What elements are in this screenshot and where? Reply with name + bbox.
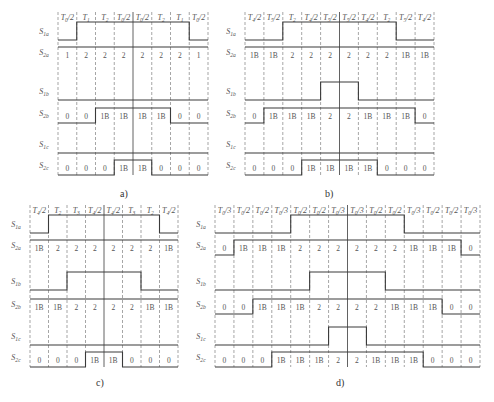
state-value: 0 xyxy=(469,356,473,365)
state-value: 0 xyxy=(423,164,427,173)
state-value: 1B xyxy=(390,303,399,312)
state-value: 1B xyxy=(382,112,391,121)
panel-a: T0/2T1T2T0/2T0/2T2T1T0/2S1aS2a12222221S1… xyxy=(39,12,208,200)
state-value: 0 xyxy=(423,112,427,121)
state-value: 0 xyxy=(178,164,182,173)
signal-label: S1a xyxy=(11,220,21,230)
state-value: 0 xyxy=(242,356,246,365)
state-value: 0 xyxy=(404,164,408,173)
state-value: 2 xyxy=(56,244,60,253)
state-value: 0 xyxy=(450,303,454,312)
state-value: 0 xyxy=(167,356,171,365)
state-value: 1B xyxy=(269,112,278,121)
state-value: 0 xyxy=(223,244,227,253)
state-value: 2 xyxy=(317,244,321,253)
state-value: 2 xyxy=(111,303,115,312)
state-value: 0 xyxy=(66,112,70,121)
state-value: 1B xyxy=(363,112,372,121)
panel-d: T0/3T0/2T0/2T0/3T0/2T0/2T0/3T0/3T0/2T0/2… xyxy=(196,205,480,389)
state-value: 1B xyxy=(277,244,286,253)
state-value: 1B xyxy=(390,356,399,365)
state-value: 1B xyxy=(164,303,173,312)
interval-header: T4/2 xyxy=(248,13,261,23)
state-value: 0 xyxy=(253,112,257,121)
signal-label: S1b xyxy=(39,87,49,97)
state-value: 1B xyxy=(164,244,173,253)
state-value: 1B xyxy=(90,356,99,365)
state-value: 2 xyxy=(148,244,152,253)
signal-label: S2a xyxy=(196,241,206,251)
state-value: 2 xyxy=(141,51,145,60)
state-value: 0 xyxy=(159,164,163,173)
switching-timing-diagram: T0/2T1T2T0/2T0/2T2T1T0/2S1aS2a12222221S1… xyxy=(0,0,494,402)
state-value: 1B xyxy=(372,356,381,365)
state-value: 2 xyxy=(347,112,351,121)
state-value: 0 xyxy=(197,112,201,121)
state-value: 1B xyxy=(345,164,354,173)
state-value: 1B xyxy=(35,303,44,312)
state-value: 1B xyxy=(35,244,44,253)
state-value: 0 xyxy=(271,164,275,173)
state-value: 2 xyxy=(336,303,340,312)
state-value: 1B xyxy=(109,356,118,365)
state-value: 0 xyxy=(223,356,227,365)
state-value: 2 xyxy=(347,51,351,60)
state-value: 0 xyxy=(84,112,88,121)
state-value: 1B xyxy=(307,112,316,121)
interval-header: T5/2 xyxy=(267,13,280,23)
signal-label: S1a xyxy=(196,220,206,230)
signal-label: S1c xyxy=(11,332,21,342)
panel-caption: a) xyxy=(120,188,128,200)
state-value: 2 xyxy=(309,51,313,60)
panel-caption: d) xyxy=(336,377,344,389)
interval-header: T5/2 xyxy=(399,13,412,23)
state-value: 2 xyxy=(374,244,378,253)
state-value: 2 xyxy=(93,303,97,312)
state-value: 0 xyxy=(37,356,41,365)
signal-label: S2a xyxy=(39,48,49,58)
state-value: 2 xyxy=(103,51,107,60)
state-value: 0 xyxy=(84,164,88,173)
state-value: 2 xyxy=(393,244,397,253)
state-value: 2 xyxy=(178,51,182,60)
state-value: 1B xyxy=(277,303,286,312)
state-value: 1B xyxy=(409,244,418,253)
state-value: 0 xyxy=(74,356,78,365)
state-value: 1B xyxy=(146,303,155,312)
state-value: 1B xyxy=(428,303,437,312)
panel-caption: b) xyxy=(325,188,333,200)
state-value: 0 xyxy=(431,356,435,365)
interval-header: T0/3 xyxy=(218,206,231,216)
state-value: 2 xyxy=(355,303,359,312)
state-value: 1B xyxy=(428,244,437,253)
signal-label: S1c xyxy=(226,140,236,150)
signal-label: S2b xyxy=(39,109,49,119)
state-value: 2 xyxy=(298,244,302,253)
state-value: 1B xyxy=(239,244,248,253)
signal-label: S2b xyxy=(226,109,236,119)
state-value: 2 xyxy=(317,303,321,312)
state-value: 2 xyxy=(130,303,134,312)
interval-header: T0/2 xyxy=(61,13,74,23)
signal-label: S2b xyxy=(196,300,206,310)
interval-header: T4/2 xyxy=(33,206,46,216)
signal-label: S1c xyxy=(196,332,206,342)
state-value: 2 xyxy=(122,51,126,60)
state-value: 2 xyxy=(336,356,340,365)
state-value: 0 xyxy=(223,303,227,312)
state-value: 0 xyxy=(253,164,257,173)
signal-label: S2c xyxy=(39,161,49,171)
state-value: 1B xyxy=(53,303,62,312)
signal-label: S2c xyxy=(11,353,21,363)
interval-header: T0/3 xyxy=(407,206,420,216)
state-value: 1B xyxy=(277,356,286,365)
interval-header: T0/2 xyxy=(256,206,269,216)
signal-label: S2a xyxy=(226,48,236,58)
panel-c: T4/2T2T3T4/2T4/2T3T2T4/2S1aS2a1B2222221B… xyxy=(11,205,178,389)
state-value: 2 xyxy=(111,244,115,253)
state-value: 0 xyxy=(66,164,70,173)
state-value: 0 xyxy=(469,244,473,253)
state-value: 2 xyxy=(355,356,359,365)
state-value: 2 xyxy=(74,244,78,253)
interval-header: T0/2 xyxy=(426,206,439,216)
